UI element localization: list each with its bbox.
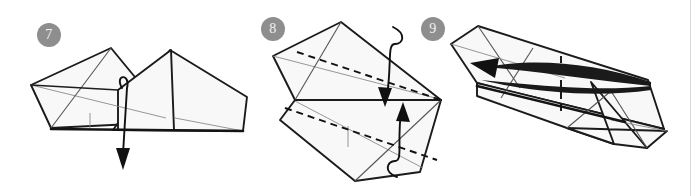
step-7-badge-label: 7	[45, 27, 52, 42]
step-9-badge-label: 9	[429, 21, 436, 36]
step-8-badge: 8	[261, 17, 285, 41]
step-7-wrap-down-arrow-head	[116, 148, 130, 170]
right-edge-divider	[690, 0, 691, 196]
step-7-badge: 7	[37, 23, 61, 47]
step-7-panel: 7	[0, 0, 250, 196]
origami-diagram-sheet: 7	[0, 0, 697, 196]
step-9-panel: 9	[415, 0, 697, 196]
step-9-badge: 9	[421, 17, 445, 41]
step-8-badge-label: 8	[269, 21, 276, 36]
